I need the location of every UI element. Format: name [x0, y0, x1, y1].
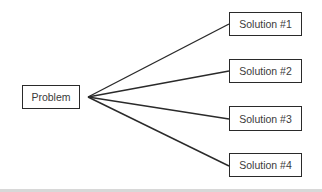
solution-node-4: Solution #4 — [229, 153, 302, 177]
problem-label: Problem — [31, 91, 70, 103]
solution-label-4: Solution #4 — [239, 159, 292, 171]
solution-node-2: Solution #2 — [229, 59, 302, 83]
solution-node-1: Solution #1 — [229, 12, 302, 36]
bottom-edge-band — [0, 189, 322, 192]
problem-node: Problem — [22, 85, 80, 109]
solution-label-3: Solution #3 — [239, 113, 292, 125]
diagram-canvas: Problem Solution #1 Solution #2 Solution… — [0, 0, 322, 192]
connector-solution-2 — [88, 71, 229, 97]
solution-node-3: Solution #3 — [229, 106, 302, 131]
solution-label-1: Solution #1 — [239, 18, 292, 30]
connector-solution-1 — [88, 24, 229, 97]
solution-label-2: Solution #2 — [239, 65, 292, 77]
